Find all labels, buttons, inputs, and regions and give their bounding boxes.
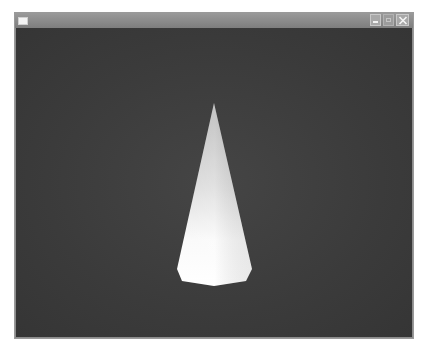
maximize-button[interactable]: [383, 14, 394, 26]
minimize-button[interactable]: [370, 14, 381, 26]
close-icon: [398, 16, 408, 25]
title-bar[interactable]: [15, 13, 413, 28]
app-icon[interactable]: [18, 17, 28, 25]
close-button[interactable]: [396, 14, 409, 26]
app-window: [14, 12, 414, 339]
cone-shape: [16, 28, 414, 338]
render-canvas[interactable]: [16, 28, 412, 337]
